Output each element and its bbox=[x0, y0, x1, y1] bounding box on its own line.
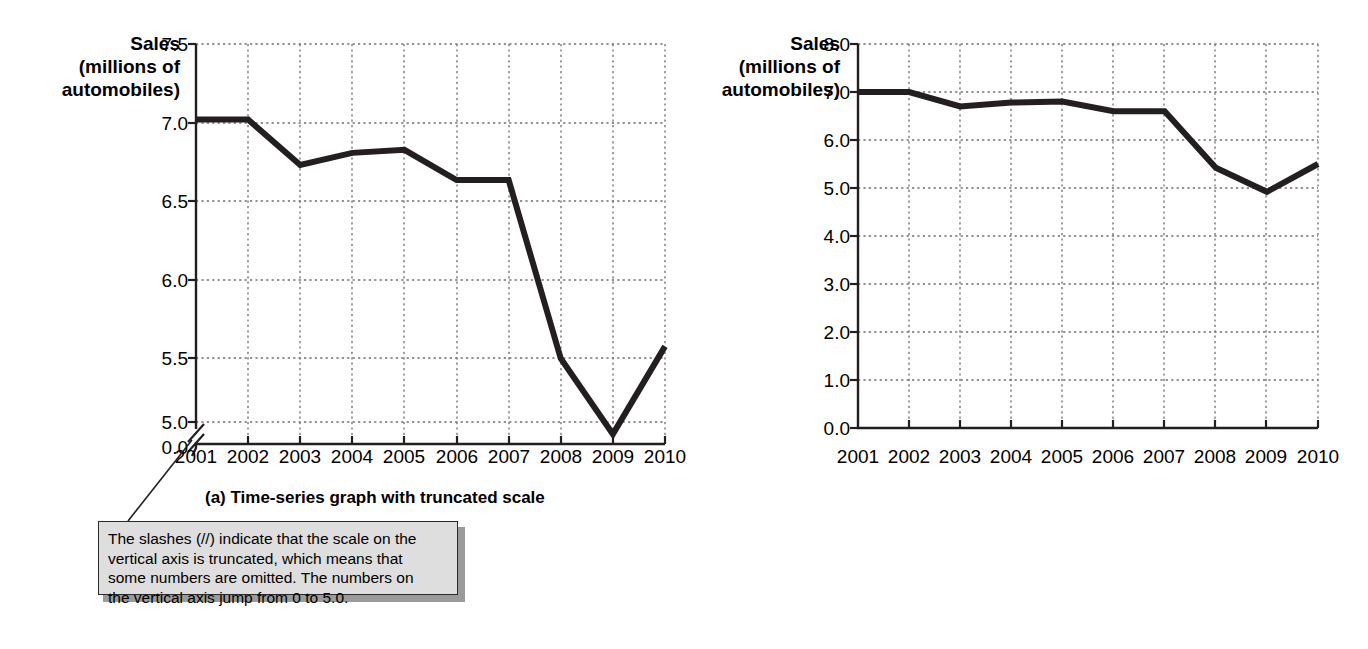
x-tick-b-8: 2009 bbox=[1245, 447, 1287, 466]
x-tick-a-5: 2006 bbox=[436, 447, 478, 466]
x-tick-a-4: 2005 bbox=[383, 447, 425, 466]
x-tick-b-2: 2003 bbox=[939, 447, 981, 466]
x-tick-b-4: 2005 bbox=[1041, 447, 1083, 466]
x-tick-a-2: 2003 bbox=[279, 447, 321, 466]
x-tick-a-3: 2004 bbox=[331, 447, 373, 466]
callout-line2: vertical axis is truncated, which means … bbox=[108, 549, 448, 569]
figure-time-series-comparison: Sales (millions of automobiles) 7.5 7.0 … bbox=[0, 0, 1368, 649]
x-tick-b-3: 2004 bbox=[990, 447, 1032, 466]
x-tick-a-9: 2010 bbox=[644, 447, 686, 466]
plot-area-a bbox=[178, 24, 698, 494]
x-tick-b-6: 2007 bbox=[1143, 447, 1185, 466]
axis-lines-b bbox=[858, 44, 1318, 428]
x-tick-b-7: 2008 bbox=[1194, 447, 1236, 466]
x-tick-a-7: 2008 bbox=[540, 447, 582, 466]
y-tick-marks-b bbox=[850, 44, 858, 428]
data-line-b bbox=[858, 92, 1318, 192]
callout-line1: The slashes (//) indicate that the scale… bbox=[108, 529, 448, 549]
gridlines-horizontal-a bbox=[196, 44, 665, 422]
data-line-a bbox=[196, 120, 665, 435]
panel-full-scale: Sales (millions of automobiles) 8.0 7.0 … bbox=[690, 0, 1368, 649]
callout-line4: the vertical axis jump from 0 to 5.0. bbox=[108, 588, 448, 608]
x-tick-b-0: 2001 bbox=[837, 447, 879, 466]
x-tick-a-0: 2001 bbox=[175, 447, 217, 466]
x-tick-a-8: 2009 bbox=[592, 447, 634, 466]
x-tick-b-1: 2002 bbox=[888, 447, 930, 466]
callout-truncation-note: The slashes (//) indicate that the scale… bbox=[98, 521, 458, 595]
callout-line3: some numbers are omitted. The numbers on bbox=[108, 568, 448, 588]
x-tick-b-5: 2006 bbox=[1092, 447, 1134, 466]
caption-a: (a) Time-series graph with truncated sca… bbox=[205, 487, 625, 508]
plot-area-b bbox=[840, 24, 1350, 494]
x-tick-a-6: 2007 bbox=[488, 447, 530, 466]
x-tick-a-1: 2002 bbox=[227, 447, 269, 466]
x-tick-b-9: 2010 bbox=[1297, 447, 1339, 466]
gridlines-vertical-a bbox=[248, 44, 665, 444]
